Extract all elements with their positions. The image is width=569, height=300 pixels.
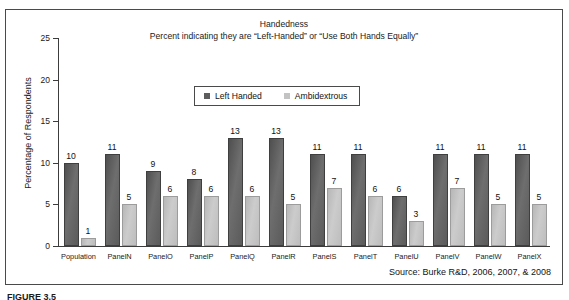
figure-caption: FIGURE 3.5 bbox=[7, 292, 56, 300]
bar-group: 63 bbox=[389, 38, 430, 246]
bar-value-label: 11 bbox=[511, 142, 533, 152]
chart-title: Handedness bbox=[6, 19, 562, 29]
bar-ambidextrous bbox=[245, 196, 260, 246]
bar-group: 136 bbox=[225, 38, 266, 246]
bar-group: 115 bbox=[102, 38, 143, 246]
x-axis-line bbox=[58, 246, 550, 247]
bar-ambidextrous bbox=[286, 204, 301, 246]
bar-group: 117 bbox=[430, 38, 471, 246]
bar-value-label: 13 bbox=[224, 126, 246, 136]
bar-value-label: 3 bbox=[405, 209, 427, 219]
bar-value-label: 13 bbox=[265, 126, 287, 136]
bar-value-label: 11 bbox=[306, 142, 328, 152]
bar-group: 86 bbox=[184, 38, 225, 246]
bar-value-label: 10 bbox=[60, 151, 82, 161]
bar-value-label: 11 bbox=[470, 142, 492, 152]
bar-value-label: 11 bbox=[429, 142, 451, 152]
bar-value-label: 6 bbox=[200, 184, 222, 194]
bar-left-handed bbox=[392, 196, 407, 246]
bar-ambidextrous bbox=[450, 188, 465, 246]
y-axis-tick-label: 0 bbox=[20, 241, 50, 251]
bar-value-label: 5 bbox=[118, 192, 140, 202]
bar-ambidextrous bbox=[368, 196, 383, 246]
y-axis-tick-label: 25 bbox=[20, 33, 50, 43]
bar-value-label: 6 bbox=[388, 184, 410, 194]
bar-value-label: 11 bbox=[347, 142, 369, 152]
bar-ambidextrous bbox=[81, 238, 96, 246]
bar-group: 115 bbox=[512, 38, 553, 246]
bar-ambidextrous bbox=[122, 204, 137, 246]
chart-legend: Left HandedAmbidextrous bbox=[194, 86, 360, 106]
legend-label: Ambidextrous bbox=[295, 91, 348, 101]
bar-value-label: 6 bbox=[159, 184, 181, 194]
top-bleed-text bbox=[18, 0, 538, 7]
bar-value-label: 7 bbox=[323, 176, 345, 186]
bar-group: 117 bbox=[307, 38, 348, 246]
bar-value-label: 9 bbox=[142, 159, 164, 169]
bar-value-label: 5 bbox=[487, 192, 509, 202]
bar-value-label: 11 bbox=[101, 142, 123, 152]
y-axis-tick-label: 10 bbox=[20, 158, 50, 168]
bar-ambidextrous bbox=[163, 196, 178, 246]
bar-group: 96 bbox=[143, 38, 184, 246]
bar-ambidextrous bbox=[204, 196, 219, 246]
legend-entry: Ambidextrous bbox=[284, 91, 348, 101]
bar-group: 101 bbox=[61, 38, 102, 246]
bar-ambidextrous bbox=[409, 221, 424, 246]
x-axis-label: PanelX bbox=[502, 252, 558, 261]
bar-value-label: 6 bbox=[241, 184, 263, 194]
bar-value-label: 6 bbox=[364, 184, 386, 194]
bar-value-label: 5 bbox=[528, 192, 550, 202]
y-axis-tick-label: 20 bbox=[20, 75, 50, 85]
bar-group: 135 bbox=[266, 38, 307, 246]
legend-label: Left Handed bbox=[215, 91, 262, 101]
bar-left-handed bbox=[146, 171, 161, 246]
bar-value-label: 5 bbox=[282, 192, 304, 202]
bar-value-label: 1 bbox=[77, 226, 99, 236]
bar-left-handed bbox=[351, 154, 366, 246]
y-axis-tick-label: 15 bbox=[20, 116, 50, 126]
legend-swatch-icon bbox=[284, 93, 290, 99]
y-axis-title: Percentage of Respondents bbox=[23, 48, 33, 218]
bar-group: 115 bbox=[471, 38, 512, 246]
bar-left-handed bbox=[433, 154, 448, 246]
y-axis-tick-label: 5 bbox=[20, 199, 50, 209]
legend-entry: Left Handed bbox=[204, 91, 262, 101]
bar-left-handed bbox=[310, 154, 325, 246]
bar-ambidextrous bbox=[532, 204, 547, 246]
y-axis-tick bbox=[53, 246, 59, 247]
bar-group: 116 bbox=[348, 38, 389, 246]
bar-ambidextrous bbox=[491, 204, 506, 246]
bar-ambidextrous bbox=[327, 188, 342, 246]
figure-frame: Handedness Percent indicating they are “… bbox=[5, 9, 563, 285]
bar-value-label: 7 bbox=[446, 176, 468, 186]
source-note: Source: Burke R&D, 2006, 2007, & 2008 bbox=[389, 267, 551, 277]
legend-swatch-icon bbox=[204, 93, 210, 99]
bar-value-label: 8 bbox=[183, 167, 205, 177]
plot-area: 101115968613613511711663117115115 bbox=[58, 38, 550, 246]
